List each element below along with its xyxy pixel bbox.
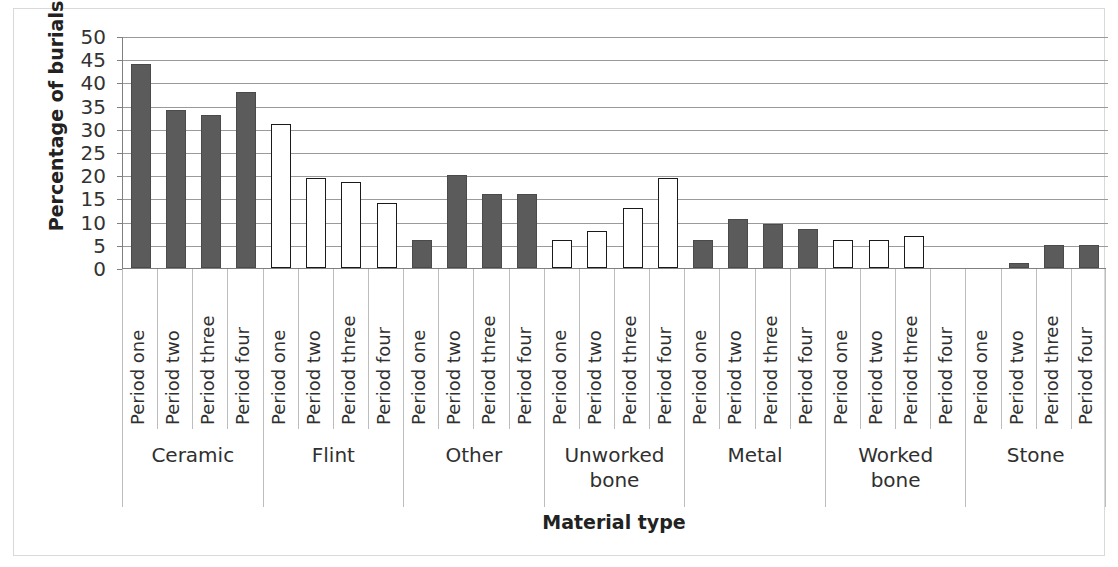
y-tick-label: 35: [81, 97, 106, 117]
period-label-cell: Period two: [438, 269, 473, 429]
bar-slot: [369, 37, 404, 268]
bar: [904, 236, 924, 268]
period-label-band: Period onePeriod twoPeriod threePeriod f…: [122, 269, 1106, 429]
period-label: Period three: [621, 316, 639, 425]
material-group-band: CeramicFlintOtherUnworkedboneMetalWorked…: [122, 429, 1106, 507]
period-label: Period one: [270, 330, 288, 425]
material-group-cell: Unworkedbone: [544, 429, 685, 507]
bar: [447, 175, 467, 268]
material-group-label: Stone: [1007, 443, 1065, 468]
material-group-label: Unworkedbone: [564, 443, 664, 493]
material-group-label: Ceramic: [151, 443, 234, 468]
bar: [306, 178, 326, 268]
y-tick-label: 5: [93, 236, 106, 256]
period-label-cell: Period four: [509, 269, 544, 429]
bar-slot: [791, 37, 826, 268]
period-label: Period three: [1043, 316, 1061, 425]
period-label-cell: Period four: [227, 269, 262, 429]
y-tick-label: 25: [81, 143, 106, 163]
material-group-label: Flint: [312, 443, 355, 468]
period-label: Period four: [937, 327, 955, 425]
chart-frame: Percentage of burials 051015202530354045…: [13, 8, 1105, 556]
period-label: Period one: [832, 330, 850, 425]
period-label: Period three: [480, 316, 498, 425]
period-label-cell: Period two: [1001, 269, 1036, 429]
period-label-cell: Period three: [895, 269, 930, 429]
bar: [377, 203, 397, 268]
period-label-cell: Period one: [544, 269, 579, 429]
bar: [798, 229, 818, 268]
period-label-cell: Period three: [333, 269, 368, 429]
period-label-cell: Period one: [965, 269, 1000, 429]
bar-slot: [1072, 37, 1107, 268]
material-group-cell: Ceramic: [122, 429, 263, 507]
bar-slot: [439, 37, 474, 268]
period-label: Period two: [1008, 330, 1026, 425]
bar: [482, 194, 502, 268]
period-label-cell: Period two: [157, 269, 192, 429]
bar-slot: [615, 37, 650, 268]
period-label-cell: Period two: [298, 269, 333, 429]
period-label: Period two: [726, 330, 744, 425]
period-label: Period one: [691, 330, 709, 425]
period-label-cell: Period four: [1071, 269, 1106, 429]
bar: [412, 240, 432, 268]
y-axis-title: Percentage of burials: [45, 0, 67, 246]
material-group-label: Other: [446, 443, 503, 468]
bar-slot: [650, 37, 685, 268]
period-label-cell: Period four: [790, 269, 825, 429]
bar: [341, 182, 361, 268]
material-group-cell: Workedbone: [825, 429, 966, 507]
period-label-cell: Period three: [192, 269, 227, 429]
period-label-cell: Period two: [860, 269, 895, 429]
period-label: Period one: [972, 330, 990, 425]
period-label-cell: Period two: [719, 269, 754, 429]
y-tick-label: 15: [81, 189, 106, 209]
y-tick-label: 45: [81, 50, 106, 70]
bar: [587, 231, 607, 268]
bar-series: [123, 37, 1106, 268]
bar: [728, 219, 748, 268]
bar-slot: [685, 37, 720, 268]
period-label: Period one: [551, 330, 569, 425]
bar: [693, 240, 713, 268]
period-label-cell: Period three: [473, 269, 508, 429]
bar: [552, 240, 572, 268]
period-label-cell: Period one: [263, 269, 298, 429]
bar: [1079, 245, 1099, 268]
bar: [763, 224, 783, 268]
bar: [517, 194, 537, 268]
period-label: Period three: [762, 316, 780, 425]
bar-slot: [861, 37, 896, 268]
material-group-cell: Metal: [684, 429, 825, 507]
y-tick-label: 40: [81, 73, 106, 93]
bar-slot: [580, 37, 615, 268]
material-group-cell: Stone: [965, 429, 1106, 507]
period-label: Period four: [656, 327, 674, 425]
period-label: Period three: [199, 316, 217, 425]
y-tick-label: 30: [81, 120, 106, 140]
bar: [201, 115, 221, 268]
y-tick-label: 20: [81, 166, 106, 186]
bar: [166, 110, 186, 268]
period-label-cell: Period four: [368, 269, 403, 429]
bar-slot: [474, 37, 509, 268]
y-tick-label: 0: [93, 259, 106, 279]
bar-slot: [123, 37, 158, 268]
period-label: Period four: [375, 327, 393, 425]
bar: [658, 178, 678, 268]
bar: [833, 240, 853, 268]
period-label-cell: Period one: [684, 269, 719, 429]
bar-slot: [720, 37, 755, 268]
period-label-cell: Period one: [122, 269, 157, 429]
material-group-label: Workedbone: [858, 443, 933, 493]
period-label: Period two: [305, 330, 323, 425]
period-label: Period one: [410, 330, 428, 425]
period-label-cell: Period three: [755, 269, 790, 429]
bar: [623, 208, 643, 268]
y-tick-label: 10: [81, 213, 106, 233]
period-label: Period two: [586, 330, 604, 425]
bar-slot: [1037, 37, 1072, 268]
period-label: Period three: [902, 316, 920, 425]
period-label: Period two: [867, 330, 885, 425]
